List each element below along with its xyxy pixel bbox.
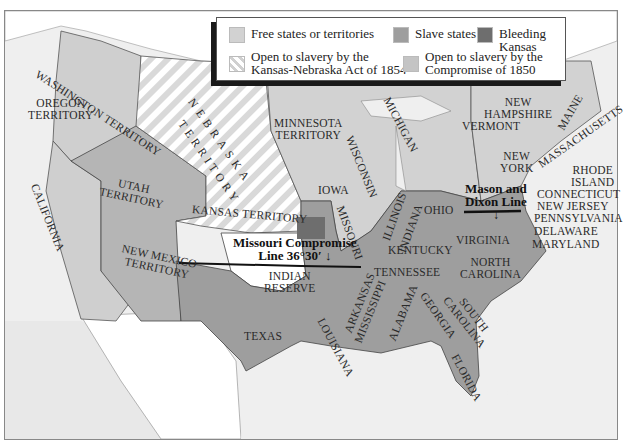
label-tennessee: TENNESSEE [374, 266, 440, 278]
label-ri-line2: ISLAND [571, 176, 614, 188]
label-vermont: VERMONT [462, 120, 520, 132]
label-oregon-territory: OREGONTERRITORY [28, 97, 93, 121]
missouri-compromise-latitude: Line 36°30′ [258, 248, 321, 263]
label-maryland: MARYLAND [532, 238, 599, 250]
legend-label-kansas-nebraska: Open to slavery by theKansas-Nebraska Ac… [251, 50, 407, 76]
swatch-bleeding-kansas-icon [477, 27, 493, 43]
label-kentucky: KENTUCKY [388, 244, 453, 256]
label-minnesota-territory: MINNESOTATERRITORY [274, 117, 343, 141]
label-minnesota-line1: MINNESOTA [274, 117, 343, 129]
swatch-compromise-1850-icon [403, 56, 419, 72]
label-rhode-island: RHODEISLAND [571, 164, 614, 188]
label-delaware: DELAWARE [534, 225, 598, 237]
label-texas: TEXAS [244, 330, 282, 342]
label-connecticut: CONNECTICUT [537, 188, 620, 200]
label-oregon-line1: OREGON [36, 97, 85, 109]
label-nc-line2: CAROLINA [460, 268, 521, 280]
label-ny-line2: YORK [500, 162, 533, 174]
label-new-york: NEWYORK [500, 150, 533, 174]
label-ohio: OHIO [424, 204, 454, 216]
label-new-hampshire: NEWHAMPSHIRE [484, 96, 552, 120]
label-nc-line1: NORTH [471, 256, 511, 268]
legend-label-slave: Slave states [415, 27, 476, 40]
label-minnesota-line2: TERRITORY [276, 129, 341, 141]
legend-item-slave: Slave states [393, 27, 476, 43]
arrow-down-icon: ↓ [493, 208, 499, 222]
label-virginia: VIRGINIA [456, 234, 510, 246]
arrow-down-icon: ↓ [325, 248, 332, 263]
label-nh-line1: NEW [505, 96, 532, 108]
swatch-slave-icon [393, 27, 409, 43]
legend-label-compromise-1850: Open to slavery by theCompromise of 1850 [425, 50, 543, 76]
map-legend: Free states or territories Slave states … [216, 17, 566, 81]
label-north-carolina: NORTHCAROLINA [460, 256, 521, 280]
label-oregon-line2: TERRITORY [28, 109, 93, 121]
label-nh-line2: HAMPSHIRE [484, 108, 552, 120]
swatch-hatched-icon [229, 56, 245, 72]
legend-c1850-line2: Compromise of 1850 [425, 62, 536, 77]
swatch-free-icon [229, 27, 245, 43]
legend-item-compromise-1850: Open to slavery by theCompromise of 1850 [403, 50, 543, 76]
label-iowa: IOWA [318, 184, 349, 196]
label-pennsylvania: PENNSYLVANIA [534, 212, 623, 224]
mason-dixon-callout: Mason and Dixon Line ↓ [465, 182, 527, 222]
label-ny-line1: NEW [503, 150, 530, 162]
label-indian-reserve: INDIANRESERVE [264, 270, 316, 294]
label-indian-line1: INDIAN [269, 270, 311, 282]
legend-item-free: Free states or territories [229, 27, 374, 43]
legend-item-kansas-nebraska: Open to slavery by theKansas-Nebraska Ac… [229, 50, 407, 76]
label-ri-line1: RHODE [572, 164, 613, 176]
missouri-compromise-callout: Missouri Compromise Line 36°30′ ↓ [233, 236, 357, 262]
legend-kn-line2: Kansas-Nebraska Act of 1854 [251, 62, 407, 77]
mason-dixon-label-line2: Dixon Line [465, 194, 527, 209]
legend-label-free: Free states or territories [251, 27, 374, 40]
label-new-jersey: NEW JERSEY [537, 200, 609, 212]
label-indian-line2: RESERVE [264, 282, 316, 294]
